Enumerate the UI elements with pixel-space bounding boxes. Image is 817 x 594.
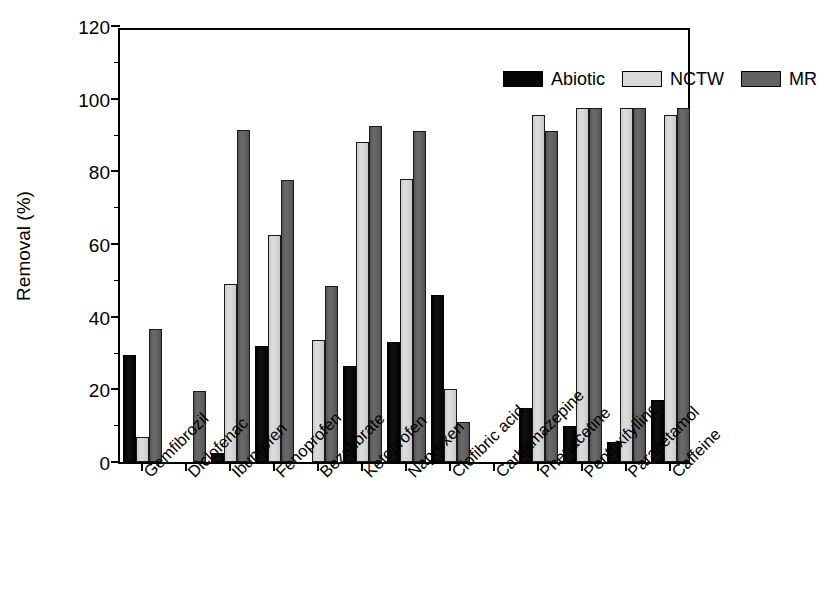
bar-abiotic: [123, 355, 136, 462]
y-tick-major: [111, 461, 120, 463]
x-category-label: Bezafibrate: [316, 468, 329, 481]
x-category-label: Paracetamol: [624, 468, 637, 481]
y-tick-major: [111, 170, 120, 172]
x-category-label: Caffeine: [668, 468, 681, 481]
bar-nctw: [620, 108, 633, 462]
y-tick-label: 20: [52, 379, 110, 403]
y-tick-label: 40: [52, 307, 110, 331]
x-category-label: Gemfibrozil: [140, 468, 153, 481]
x-category-label: Ketoprofen: [360, 468, 373, 481]
y-axis-title: Removal (%): [10, 28, 38, 464]
bar-mr: [149, 329, 162, 462]
legend-label: MR: [789, 69, 817, 90]
x-category-label: Clofibric acid: [448, 468, 461, 481]
x-category-label: Fenoprofen: [272, 468, 285, 481]
y-tick-major: [111, 25, 120, 27]
bar-nctw: [136, 437, 149, 462]
y-tick-minor: [114, 62, 120, 63]
y-tick-major: [111, 98, 120, 100]
y-tick-minor: [114, 280, 120, 281]
y-tick-minor: [114, 135, 120, 136]
y-tick-label: 0: [52, 452, 110, 476]
plot-frame: AbioticNCTWMR: [118, 28, 690, 464]
caption-fragment: [8, 584, 700, 594]
legend-label: NCTW: [670, 69, 724, 90]
y-tick-label: 80: [52, 161, 110, 185]
y-tick-major: [111, 243, 120, 245]
y-tick-label: 120: [52, 16, 110, 40]
plot-area: [120, 30, 688, 462]
y-tick-label: 60: [52, 234, 110, 258]
x-category-label: Naproxen: [404, 468, 417, 481]
bar-nctw: [532, 115, 545, 462]
x-axis-category-labels: GemfibrozilDiclofenacIbuprofenFenoprofen…: [118, 468, 690, 578]
x-category-label: Carbamazepine: [492, 468, 505, 481]
y-tick-major: [111, 316, 120, 318]
bar-nctw: [356, 142, 369, 462]
legend: AbioticNCTWMR: [503, 66, 817, 92]
legend-swatch-icon: [503, 71, 543, 87]
x-category-label: Diclofenac: [184, 468, 197, 481]
bar-nctw: [664, 115, 677, 462]
x-category-label: Ibuprofen: [228, 468, 241, 481]
legend-entry-nctw: NCTW: [622, 69, 724, 90]
legend-swatch-icon: [622, 71, 662, 87]
legend-label: Abiotic: [551, 69, 605, 90]
y-tick-minor: [114, 207, 120, 208]
legend-swatch-icon: [741, 71, 781, 87]
legend-entry-abiotic: Abiotic: [503, 69, 605, 90]
x-category-label: Pentoxifylline: [580, 468, 593, 481]
bar-mr: [281, 180, 294, 462]
y-tick-label: 100: [52, 89, 110, 113]
y-tick-major: [111, 388, 120, 390]
y-axis-title-text: Removal (%): [10, 28, 38, 464]
x-category-label: Phenacetine: [536, 468, 549, 481]
legend-entry-mr: MR: [741, 69, 817, 90]
y-tick-minor: [114, 425, 120, 426]
y-tick-minor: [114, 353, 120, 354]
